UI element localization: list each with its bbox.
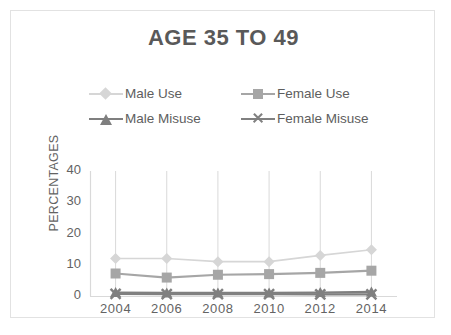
chart-legend: Male Use Female Use Male Misuse xyxy=(89,81,379,131)
chart-container: AGE 35 TO 49 Male Use Female Use xyxy=(10,10,435,318)
legend-label-male-misuse: Male Misuse xyxy=(123,111,201,126)
y-tick-label: 30 xyxy=(51,193,81,208)
data-point-male-use xyxy=(110,253,121,264)
legend-label-female-misuse: Female Misuse xyxy=(275,111,369,126)
legend-label-female-use: Female Use xyxy=(275,86,350,101)
plot-svg xyxy=(78,161,409,306)
data-point-male-use xyxy=(264,256,275,267)
data-point-male-use xyxy=(161,253,172,264)
series-line-female-use xyxy=(116,271,372,278)
data-point-male-use xyxy=(212,256,223,267)
data-point-female-use xyxy=(213,270,223,280)
data-point-female-use xyxy=(315,268,325,278)
legend-row-2: Male Misuse Female Misuse xyxy=(89,106,379,131)
y-tick-label: 10 xyxy=(51,256,81,271)
legend-item-female-use[interactable]: Female Use xyxy=(241,86,379,101)
legend-marker-square-icon xyxy=(241,87,275,101)
series-line-female-misuse xyxy=(116,294,372,295)
data-point-female-use xyxy=(264,269,274,279)
legend-marker-x-icon xyxy=(241,112,275,126)
legend-item-female-misuse[interactable]: Female Misuse xyxy=(241,111,379,126)
legend-item-male-use[interactable]: Male Use xyxy=(89,86,241,101)
legend-row-1: Male Use Female Use xyxy=(89,81,379,106)
series-line-male-use xyxy=(116,250,372,262)
legend-item-male-misuse[interactable]: Male Misuse xyxy=(89,111,241,126)
y-tick-label: 40 xyxy=(51,162,81,177)
data-point-male-use xyxy=(366,244,377,255)
data-point-female-use xyxy=(162,273,172,283)
y-tick-label: 20 xyxy=(51,225,81,240)
series-line-male-misuse xyxy=(116,292,372,293)
legend-marker-diamond-icon xyxy=(89,87,123,101)
plot-area xyxy=(90,171,397,296)
legend-marker-triangle-icon xyxy=(89,112,123,126)
chart-title: AGE 35 TO 49 xyxy=(11,25,436,51)
data-point-male-use xyxy=(315,250,326,261)
legend-label-male-use: Male Use xyxy=(123,86,182,101)
y-tick-label: 0 xyxy=(51,287,81,302)
data-point-female-use xyxy=(366,266,376,276)
data-point-female-use xyxy=(111,269,121,279)
